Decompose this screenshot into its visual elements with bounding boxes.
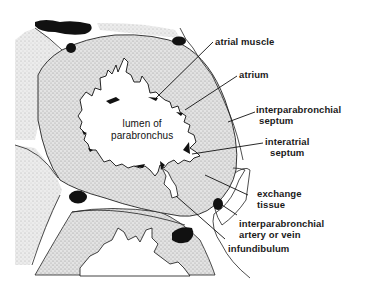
ias-line1: interatrial [265,136,309,147]
vessel-top-left [35,20,92,35]
label-atrial-muscle: atrial muscle [215,36,274,47]
infundibulum-text: infundibulum [228,243,289,254]
lumen-line1: lumen of [111,118,173,130]
vessel-top-right [172,37,186,46]
parabronchus-diagram [0,0,365,296]
vessel-left-mid [69,191,87,204]
label-infundibulum: infundibulum [228,243,289,254]
figure-caption [95,288,365,296]
ias-line2: septum [265,147,309,158]
ips-line1: interparabronchial [256,104,341,115]
atrium-text: atrium [239,69,269,80]
label-lumen: lumen of parabronchus [111,118,173,142]
label-interparabronchial-septum: interparabronchial septum [256,104,341,126]
vessel-right-artery [213,198,223,210]
artery-line2: artery or vein [239,229,324,240]
label-interparabronchial-artery: interparabronchial artery or vein [239,218,324,240]
ips-line2: septum [256,115,341,126]
label-atrium: atrium [239,69,269,80]
exchange-line1: exchange [257,188,302,199]
exchange-line2: tissue [257,199,302,210]
atrial-muscle-text: atrial muscle [215,36,274,47]
label-interatrial-septum: interatrial septum [265,136,309,158]
artery-line1: interparabronchial [239,218,324,229]
label-exchange-tissue: exchange tissue [257,188,302,210]
vessel-small-left [66,43,76,53]
lumen-line2: parabronchus [111,130,173,142]
